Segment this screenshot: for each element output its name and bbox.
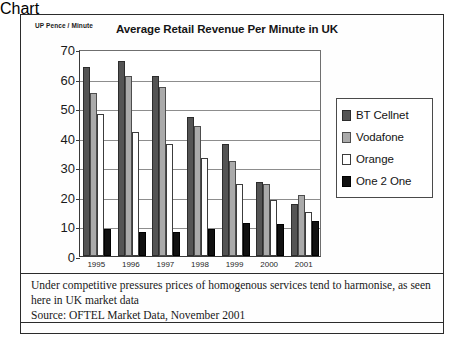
bar bbox=[104, 229, 111, 256]
bar bbox=[291, 204, 298, 256]
y-axis-tick-label: 40 bbox=[41, 131, 75, 146]
legend-swatch-icon bbox=[342, 110, 351, 121]
legend-swatch-icon bbox=[342, 154, 351, 165]
bar bbox=[263, 184, 270, 256]
legend-label: BT Cellnet bbox=[356, 109, 408, 121]
legend-label: One 2 One bbox=[356, 175, 411, 187]
bar-group bbox=[218, 51, 253, 256]
bar bbox=[201, 158, 208, 256]
chart-legend: BT CellnetVodafoneOrangeOne 2 One bbox=[336, 98, 433, 198]
chart-area: UP Pence / Minute Average Retail Revenue… bbox=[21, 15, 445, 273]
bar bbox=[270, 200, 277, 256]
y-axis-tick-label: 70 bbox=[41, 43, 75, 58]
x-axis-tick-label: 2001 bbox=[295, 260, 313, 269]
bar bbox=[187, 117, 194, 256]
caption-note: Under competitive pressures prices of ho… bbox=[31, 278, 433, 307]
x-axis-tick-label: 1999 bbox=[226, 260, 244, 269]
x-axis-tick-label: 1997 bbox=[157, 260, 175, 269]
y-axis-tick-label: 10 bbox=[41, 220, 75, 235]
bar bbox=[139, 232, 146, 256]
slide-frame: UP Pence / Minute Average Retail Revenue… bbox=[20, 14, 444, 334]
bar bbox=[118, 61, 125, 256]
bar bbox=[90, 93, 97, 256]
x-axis-tick-label: 1995 bbox=[87, 260, 105, 269]
legend-item: Orange bbox=[342, 148, 428, 170]
x-axis-tick-label: 2000 bbox=[260, 260, 278, 269]
y-axis-tick-label: 60 bbox=[41, 72, 75, 87]
bar bbox=[256, 182, 263, 256]
bar-group bbox=[149, 51, 184, 256]
caption-divider-secondary bbox=[21, 322, 443, 323]
bar bbox=[152, 76, 159, 256]
caption-block: Under competitive pressures prices of ho… bbox=[31, 278, 433, 323]
bar bbox=[194, 126, 201, 256]
bar bbox=[125, 76, 132, 256]
legend-label: Vodafone bbox=[356, 131, 404, 143]
bar bbox=[97, 114, 104, 256]
legend-item: One 2 One bbox=[342, 170, 428, 192]
bar-group bbox=[184, 51, 219, 256]
x-axis-tick-label: 1998 bbox=[191, 260, 209, 269]
x-axis-tick-label: 1996 bbox=[122, 260, 140, 269]
y-axis-tick-label: 50 bbox=[41, 102, 75, 117]
bar-group bbox=[115, 51, 150, 256]
y-axis-tick-label: 0 bbox=[41, 250, 75, 265]
chart-title: Average Retail Revenue Per Minute in UK bbox=[116, 23, 338, 35]
bar bbox=[277, 224, 284, 256]
bar bbox=[159, 87, 166, 256]
bar bbox=[132, 132, 139, 256]
y-axis-title: UP Pence / Minute bbox=[35, 22, 93, 29]
bar bbox=[166, 144, 173, 256]
y-axis-tick-label: 30 bbox=[41, 161, 75, 176]
bar-group bbox=[287, 51, 322, 256]
bar bbox=[229, 161, 236, 256]
bar bbox=[305, 212, 312, 256]
y-axis-tick-label: 20 bbox=[41, 190, 75, 205]
legend-label: Orange bbox=[356, 153, 394, 165]
plot-area bbox=[79, 50, 321, 257]
bar bbox=[208, 229, 215, 256]
legend-item: Vodafone bbox=[342, 126, 428, 148]
y-axis-tick-mark bbox=[76, 258, 80, 259]
bar-group bbox=[253, 51, 288, 256]
bar bbox=[236, 184, 243, 256]
legend-item: BT Cellnet bbox=[342, 104, 428, 126]
caption-source: Source: OFTEL Market Data, November 2001 bbox=[31, 308, 433, 323]
legend-swatch-icon bbox=[342, 176, 351, 187]
bar bbox=[173, 232, 180, 256]
legend-swatch-icon bbox=[342, 132, 351, 143]
bar bbox=[243, 223, 250, 256]
bar bbox=[312, 221, 319, 256]
bar bbox=[222, 144, 229, 256]
y-axis-tick-labels: 010203040506070 bbox=[37, 50, 75, 257]
bar bbox=[83, 67, 90, 256]
bar bbox=[298, 195, 305, 256]
bar-group bbox=[80, 51, 115, 256]
caption-divider bbox=[21, 273, 443, 274]
